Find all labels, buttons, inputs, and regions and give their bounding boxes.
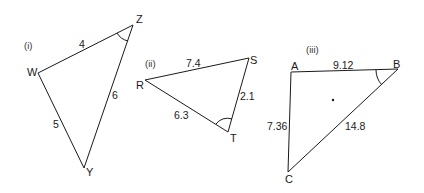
vertex-b-label: B xyxy=(393,59,400,70)
side-wz-label: 4 xyxy=(79,39,85,50)
vertex-w-label: W xyxy=(27,67,37,78)
triangle-i xyxy=(38,25,133,168)
side-rs-label: 7.4 xyxy=(186,58,201,69)
side-wy-label: 5 xyxy=(53,119,59,130)
vertex-a-label: A xyxy=(291,61,298,72)
triangle-ii-tag: (ii) xyxy=(145,58,156,69)
side-st-label: 2.1 xyxy=(240,91,255,102)
triangles-diagram xyxy=(0,0,424,193)
triangle-i-outline xyxy=(38,25,133,168)
angle-arc-b xyxy=(376,70,382,85)
vertex-s-label: S xyxy=(250,55,257,66)
triangle-i-tag: (i) xyxy=(24,40,32,51)
triangle-iii-tag: (iii) xyxy=(306,44,319,55)
side-rt-label: 6.3 xyxy=(174,110,189,121)
triangle-ii-outline xyxy=(145,58,249,132)
triangle-ii xyxy=(145,58,249,132)
vertex-t-label: T xyxy=(230,133,237,144)
side-zy-label: 6 xyxy=(112,90,118,101)
vertex-r-label: R xyxy=(136,80,144,91)
vertex-z-label: Z xyxy=(136,14,143,25)
side-ab-label: 9.12 xyxy=(333,60,353,71)
triangle-iii xyxy=(288,69,398,172)
vertex-y-label: Y xyxy=(86,167,93,178)
angle-arc-z xyxy=(117,33,128,41)
side-ac-label: 7.36 xyxy=(267,121,287,132)
angle-arc-t xyxy=(216,118,232,124)
dot-mark xyxy=(332,99,334,101)
side-bc-label: 14.8 xyxy=(345,121,365,132)
vertex-c-label: C xyxy=(285,174,293,185)
